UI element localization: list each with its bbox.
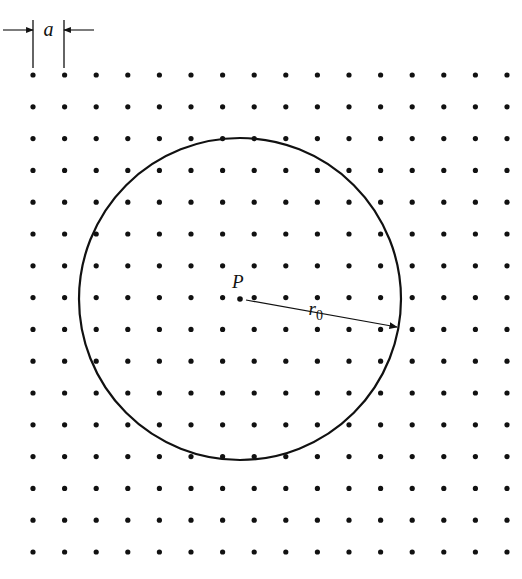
lattice-point: [94, 168, 99, 173]
lattice-point: [410, 454, 415, 459]
lattice-point: [410, 359, 415, 364]
center-point-p: [237, 296, 243, 302]
lattice-point: [315, 231, 320, 236]
lattice-point: [125, 518, 130, 523]
lattice-point: [188, 200, 193, 205]
lattice-point: [346, 327, 351, 332]
lattice-point: [378, 295, 383, 300]
lattice-point: [125, 168, 130, 173]
lattice-point: [94, 422, 99, 427]
lattice-point: [410, 549, 415, 554]
lattice-point: [504, 263, 509, 268]
lattice-point: [252, 518, 257, 523]
lattice-point: [252, 104, 257, 109]
lattice-point: [220, 486, 225, 491]
lattice-point: [410, 200, 415, 205]
lattice-point: [30, 359, 35, 364]
lattice-point: [125, 200, 130, 205]
lattice-point: [188, 390, 193, 395]
lattice-point: [504, 136, 509, 141]
lattice-point: [504, 104, 509, 109]
lattice-point: [378, 104, 383, 109]
lattice-point: [283, 422, 288, 427]
lattice-point: [30, 327, 35, 332]
lattice-point: [315, 168, 320, 173]
lattice-point: [157, 168, 162, 173]
lattice-point: [94, 263, 99, 268]
point-p-label: P: [231, 271, 244, 292]
lattice-point: [157, 72, 162, 77]
lattice-point: [220, 295, 225, 300]
lattice-point: [315, 72, 320, 77]
lattice-point: [504, 327, 509, 332]
lattice-point: [346, 295, 351, 300]
lattice-point: [252, 549, 257, 554]
lattice-point: [157, 549, 162, 554]
lattice-point: [473, 486, 478, 491]
lattice-point: [378, 486, 383, 491]
lattice-point: [30, 168, 35, 173]
lattice-point: [30, 295, 35, 300]
lattice-point: [346, 136, 351, 141]
lattice-point: [410, 263, 415, 268]
lattice-points: [30, 72, 509, 554]
lattice-point: [62, 263, 67, 268]
lattice-point: [188, 263, 193, 268]
lattice-point: [410, 422, 415, 427]
lattice-point: [30, 518, 35, 523]
radius-r0-label: r0: [309, 298, 323, 323]
lattice-point: [441, 104, 446, 109]
lattice-point: [94, 359, 99, 364]
lattice-point: [188, 518, 193, 523]
lattice-point: [62, 454, 67, 459]
lattice-point: [378, 72, 383, 77]
lattice-point: [441, 390, 446, 395]
lattice-point: [315, 263, 320, 268]
lattice-point: [410, 486, 415, 491]
lattice-point: [252, 390, 257, 395]
lattice-point: [157, 200, 162, 205]
lattice-point: [220, 168, 225, 173]
lattice-point: [441, 231, 446, 236]
lattice-point: [94, 549, 99, 554]
lattice-point: [410, 168, 415, 173]
lattice-point: [346, 200, 351, 205]
lattice-point: [125, 454, 130, 459]
lattice-point: [62, 390, 67, 395]
lattice-point: [346, 422, 351, 427]
lattice-point: [157, 422, 162, 427]
lattice-point: [441, 486, 446, 491]
lattice-point: [188, 549, 193, 554]
lattice-point: [473, 549, 478, 554]
lattice-point: [220, 231, 225, 236]
lattice-point: [315, 549, 320, 554]
radius-subscript: 0: [316, 308, 323, 323]
lattice-point: [504, 486, 509, 491]
lattice-point: [378, 518, 383, 523]
lattice-point: [473, 263, 478, 268]
lattice-point: [441, 168, 446, 173]
lattice-point: [62, 104, 67, 109]
lattice-point: [441, 263, 446, 268]
lattice-point: [441, 295, 446, 300]
lattice-point: [504, 231, 509, 236]
lattice-point: [94, 518, 99, 523]
lattice-point: [315, 518, 320, 523]
lattice-point: [125, 295, 130, 300]
lattice-point: [188, 454, 193, 459]
lattice-point: [346, 104, 351, 109]
lattice-point: [94, 200, 99, 205]
lattice-point: [504, 549, 509, 554]
lattice-point: [220, 549, 225, 554]
lattice-point: [378, 390, 383, 395]
lattice-point: [125, 390, 130, 395]
lattice-point: [188, 136, 193, 141]
lattice-point: [30, 390, 35, 395]
lattice-point: [188, 104, 193, 109]
lattice-point: [188, 422, 193, 427]
lattice-point: [30, 136, 35, 141]
lattice-point: [157, 454, 162, 459]
lattice-point: [283, 295, 288, 300]
lattice-point: [378, 200, 383, 205]
lattice-point: [125, 549, 130, 554]
